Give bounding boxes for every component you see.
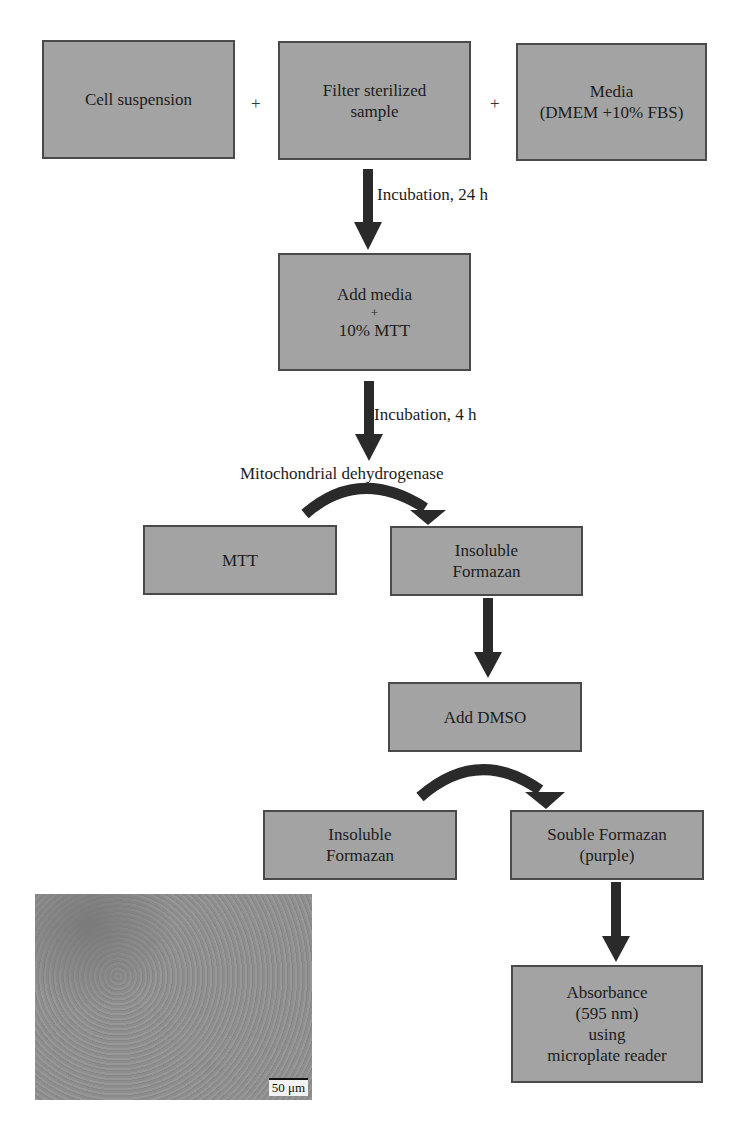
box-text: MTT	[222, 550, 258, 571]
box-text: Add DMSO	[444, 707, 527, 728]
plus-sign: +	[490, 94, 500, 114]
box-text: Insoluble	[328, 824, 391, 845]
box-text: using	[589, 1024, 626, 1045]
filter-sterilized-sample-box: Filter sterilized sample	[278, 41, 471, 160]
incubation-24h-label: Incubation, 24 h	[377, 185, 488, 205]
soluble-formazan-box: Souble Formazan (purple)	[510, 810, 704, 880]
incubation-4h-label: Incubation, 4 h	[374, 405, 476, 425]
absorbance-box: Absorbance (595 nm) using microplate rea…	[511, 965, 703, 1083]
add-media-box: Add media + 10% MTT	[278, 253, 471, 371]
cell-suspension-box: Cell suspension	[42, 40, 235, 159]
curved-arrow-icon	[305, 488, 446, 525]
box-text: microplate reader	[547, 1045, 666, 1066]
box-text: (purple)	[580, 845, 635, 866]
box-text: Filter sterilized	[323, 80, 426, 101]
plus-sign: +	[251, 94, 261, 114]
box-text: sample	[350, 101, 398, 122]
box-text: (595 nm)	[576, 1003, 639, 1024]
box-text: Add media	[337, 284, 412, 305]
box-text: Souble Formazan	[547, 824, 666, 845]
enzyme-label: Mitochondrial dehydrogenase	[240, 464, 443, 484]
insoluble-formazan-box-1: Insoluble Formazan	[390, 526, 583, 596]
down-arrow-icon	[474, 598, 502, 678]
box-text: Insoluble	[455, 540, 518, 561]
box-text: (DMEM +10% FBS)	[540, 102, 684, 123]
curved-arrow-icon	[420, 770, 565, 809]
box-text: Formazan	[453, 561, 521, 582]
media-box: Media (DMEM +10% FBS)	[516, 43, 707, 161]
down-arrow-icon	[354, 169, 382, 250]
cell-micrograph: 50 μm	[35, 894, 312, 1100]
add-dmso-box: Add DMSO	[388, 682, 582, 752]
box-text: Media	[590, 81, 633, 102]
box-text: Absorbance	[566, 982, 647, 1003]
box-text: +	[371, 305, 378, 320]
box-text: Formazan	[326, 845, 394, 866]
box-text: Cell suspension	[85, 89, 192, 110]
scale-bar: 50 μm	[269, 1078, 308, 1096]
box-text: 10% MTT	[339, 320, 410, 341]
insoluble-formazan-box-2: Insoluble Formazan	[263, 810, 457, 880]
down-arrow-icon	[602, 882, 630, 962]
mtt-box: MTT	[143, 525, 337, 595]
